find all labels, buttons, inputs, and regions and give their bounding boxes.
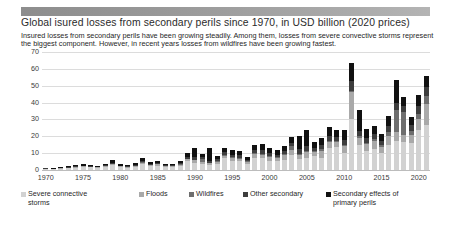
bar-1974 — [73, 165, 78, 170]
legend-row: Severe connectivestormsFloodsWildfiresOt… — [21, 190, 441, 200]
bar-2010 — [342, 130, 347, 170]
bar-segment — [66, 168, 71, 170]
bar-1992 — [207, 148, 212, 170]
bar-2007 — [319, 138, 324, 170]
bar-segment — [409, 143, 414, 170]
bar-segment — [51, 169, 56, 170]
bar-segment — [401, 97, 406, 106]
bar-segment — [125, 168, 130, 170]
bar-segment — [155, 166, 160, 170]
bar-1981 — [125, 165, 130, 170]
bar-segment — [73, 168, 78, 170]
bar-1977 — [95, 166, 100, 170]
x-axis-tick-1990: 1990 — [187, 173, 203, 182]
bar-1978 — [103, 164, 108, 170]
legend-item-4[interactable]: Secondary effects ofprimary perils — [326, 190, 398, 207]
bar-segment — [334, 147, 339, 170]
bar-segment — [230, 161, 235, 170]
legend-item-0[interactable]: Severe connectivestorms — [21, 190, 87, 207]
bar-segment — [416, 119, 421, 130]
legend-item-2[interactable]: Wildfires — [189, 190, 224, 199]
bar-segment — [372, 141, 377, 149]
bar-segment — [110, 165, 115, 170]
y-axis-tick-30: 30 — [31, 116, 39, 123]
bar-segment — [237, 161, 242, 170]
bar-segment — [319, 138, 324, 145]
bar-segment — [222, 158, 227, 170]
y-axis-tick-40: 40 — [31, 99, 39, 106]
bar-2004 — [297, 136, 302, 170]
bar-1999 — [260, 144, 265, 170]
bar-segment — [58, 169, 63, 170]
bar-segment — [95, 168, 100, 170]
x-axis-labels: 1970197519801985199019952000200520102015… — [42, 171, 430, 183]
bar-1986 — [163, 164, 168, 170]
bar-segment — [416, 95, 421, 107]
y-axis-tick-60: 60 — [31, 65, 39, 72]
bar-1983 — [140, 158, 145, 170]
bar-segment — [386, 116, 391, 126]
bar-segment — [386, 136, 391, 144]
bar-1979 — [110, 160, 115, 170]
bar-segment — [394, 132, 399, 141]
bar-1990 — [192, 148, 197, 170]
bar-1973 — [66, 166, 71, 170]
bar-segment — [379, 153, 384, 170]
bar-segment — [364, 151, 369, 170]
x-axis-tick-2000: 2000 — [262, 173, 278, 182]
legend-label: Severe connectivestorms — [28, 190, 87, 207]
bar-segment — [372, 149, 377, 170]
bar-segment — [252, 158, 257, 170]
bar-segment — [304, 158, 309, 170]
bar-1993 — [215, 156, 220, 170]
bar-segment — [401, 112, 406, 135]
bar-segment — [133, 167, 138, 170]
bar-segment — [364, 144, 369, 151]
y-axis-tick-50: 50 — [31, 82, 39, 89]
bar-segment — [319, 158, 324, 170]
bar-2001 — [275, 150, 280, 170]
page-subtitle: Insured losses from secondary perils hav… — [21, 32, 436, 49]
bar-1995 — [230, 150, 235, 170]
bar-1975 — [81, 164, 86, 170]
bar-2013 — [364, 129, 369, 170]
header-banner — [21, 7, 430, 16]
legend-item-3[interactable]: Other secondary — [243, 190, 303, 199]
bar-segment — [364, 129, 369, 137]
bar-segment — [275, 161, 280, 170]
bar-2014 — [372, 126, 377, 170]
bar-segment — [170, 167, 175, 170]
bar-segment — [386, 145, 391, 170]
x-axis-tick-2015: 2015 — [374, 173, 390, 182]
bar-1997 — [245, 157, 250, 170]
bar-segment — [409, 135, 414, 143]
bar-segment — [372, 126, 377, 134]
bar-segment — [178, 166, 183, 170]
bar-2005 — [304, 130, 309, 170]
bar-segment — [207, 165, 212, 170]
bar-segment — [349, 63, 354, 81]
bar-segment — [409, 117, 414, 125]
bar-segment — [342, 130, 347, 139]
bar-2006 — [312, 142, 317, 170]
legend-item-1[interactable]: Floods — [139, 190, 168, 199]
bar-segment — [260, 158, 265, 170]
bar-segment — [394, 80, 399, 104]
bar-segment — [304, 130, 309, 146]
bar-segment — [140, 164, 145, 170]
chart-legend: Severe connectivestormsFloodsWildfiresOt… — [21, 190, 441, 200]
bar-segment — [163, 167, 168, 170]
bar-1991 — [200, 154, 205, 170]
bar-2011 — [349, 63, 354, 170]
chart-bars — [42, 52, 430, 170]
bar-segment — [342, 153, 347, 170]
bar-segment — [416, 106, 421, 113]
bar-segment — [357, 138, 362, 145]
bar-segment — [349, 119, 354, 170]
y-axis-tick-10: 10 — [31, 150, 39, 157]
bar-1987 — [170, 164, 175, 170]
bar-2000 — [267, 148, 272, 170]
bar-segment — [118, 167, 123, 170]
bar-segment — [192, 148, 197, 156]
legend-swatch-icon — [243, 192, 248, 197]
